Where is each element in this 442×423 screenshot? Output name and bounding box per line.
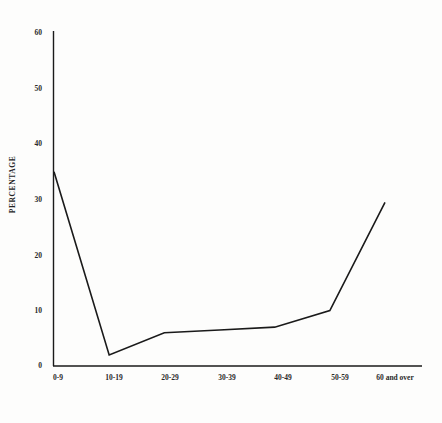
line-chart-figure: PERCENTAGE 60 50 40 30 20 10 0 0-9 10-19… [0, 0, 442, 423]
plot-area [0, 0, 442, 423]
data-series-line [54, 172, 385, 355]
